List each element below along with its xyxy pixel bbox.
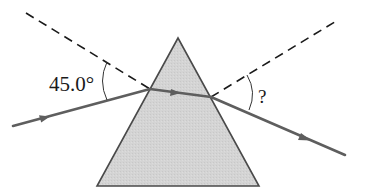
incident-angle-label: 45.0° — [49, 72, 94, 96]
prism — [97, 38, 259, 186]
exit-normal-dashed — [211, 20, 338, 97]
incident-ray-arrow-icon — [39, 115, 50, 122]
incident-angle-arc — [103, 62, 108, 100]
emergent-angle-label: ? — [258, 86, 266, 107]
emergent-angle-arc — [247, 75, 253, 110]
prism-diagram: 45.0° ? — [0, 0, 372, 192]
diagram-canvas: 45.0° ? — [0, 0, 372, 192]
